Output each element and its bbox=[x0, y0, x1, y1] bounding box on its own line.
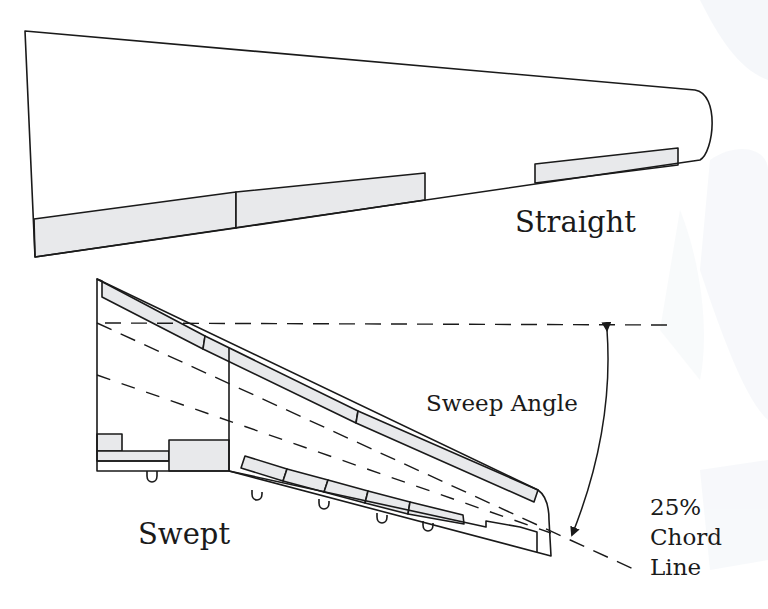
chord-line-label-line1: 25% bbox=[650, 492, 722, 522]
flap-track-fairing bbox=[377, 513, 387, 523]
swept-slat-3 bbox=[356, 411, 538, 502]
flap-track-fairing bbox=[147, 471, 157, 482]
swept-inboard-flap bbox=[169, 440, 229, 471]
swept-root-block-small bbox=[97, 434, 122, 451]
chord-line-label: 25% Chord Line bbox=[650, 492, 722, 582]
straight-outboard-flap bbox=[236, 173, 425, 228]
flap-track-fairing bbox=[319, 499, 329, 509]
swept-wing-label: Swept bbox=[138, 520, 230, 549]
straight-aileron bbox=[535, 148, 678, 183]
sweep-angle-arrow bbox=[572, 330, 608, 535]
wing-diagram: Straight Swept Sweep Angle 25% Chord Lin… bbox=[0, 0, 768, 609]
chord-line-label-line2: Chord bbox=[650, 522, 722, 552]
swept-slat-2 bbox=[203, 336, 358, 423]
swept-wing bbox=[97, 279, 551, 556]
chord-line-label-line3: Line bbox=[650, 552, 722, 582]
swept-root-strip bbox=[97, 451, 169, 461]
straight-wing-label: Straight bbox=[515, 208, 636, 237]
straight-inboard-flap bbox=[34, 192, 236, 257]
flap-track-fairing bbox=[252, 490, 262, 500]
swept-flap-1 bbox=[241, 456, 287, 481]
swept-flap-2 bbox=[283, 469, 328, 492]
sweep-angle-label: Sweep Angle bbox=[426, 392, 578, 415]
swept-slat-1 bbox=[97, 279, 205, 349]
background-watermark bbox=[660, 0, 768, 570]
